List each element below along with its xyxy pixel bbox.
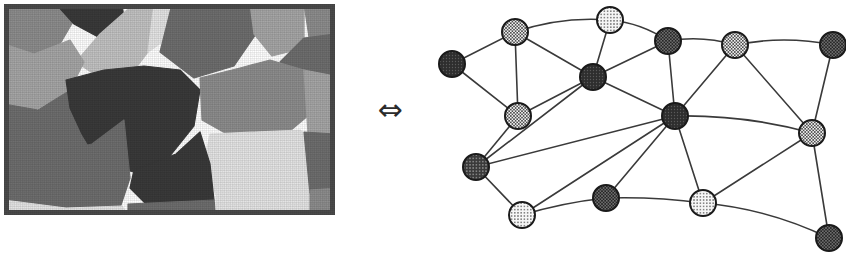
graph-node[interactable] — [655, 28, 681, 54]
graph-node-circle[interactable] — [593, 185, 619, 211]
region-adjacency-graph-svg — [430, 0, 846, 257]
graph-edge — [515, 19, 610, 32]
graph-edge — [812, 133, 829, 238]
graph-node-circle[interactable] — [597, 7, 623, 33]
graph-node[interactable] — [593, 185, 619, 211]
graph-node[interactable] — [502, 19, 528, 45]
graph-node[interactable] — [799, 120, 825, 146]
graph-node-circle[interactable] — [505, 103, 531, 129]
graph-node-circle[interactable] — [655, 28, 681, 54]
graph-edge — [476, 77, 593, 167]
graph-node-circle[interactable] — [799, 120, 825, 146]
graph-edge — [703, 203, 829, 238]
graph-edge — [703, 133, 812, 203]
graph-node[interactable] — [816, 225, 842, 251]
graph-node-circle[interactable] — [816, 225, 842, 251]
graph-node-circle[interactable] — [820, 32, 846, 58]
graph-edge — [476, 116, 675, 167]
equivalence-arrow-icon: ⇔ — [360, 90, 420, 130]
graph-node[interactable] — [722, 32, 748, 58]
graph-node-circle[interactable] — [502, 19, 528, 45]
graph-node-circle[interactable] — [463, 154, 489, 180]
graph-node[interactable] — [439, 51, 465, 77]
graph-node-circle[interactable] — [690, 190, 716, 216]
graph-node[interactable] — [820, 32, 846, 58]
graph-node-circle[interactable] — [439, 51, 465, 77]
figure-canvas: ⇔ — [0, 0, 846, 257]
graph-node[interactable] — [662, 103, 688, 129]
region-adjacency-graph — [430, 0, 846, 257]
graph-node-circle[interactable] — [580, 64, 606, 90]
graph-node[interactable] — [580, 64, 606, 90]
graph-nodes — [439, 7, 846, 251]
graph-edge — [606, 116, 675, 198]
segmented-image-svg — [4, 4, 335, 215]
graph-node[interactable] — [690, 190, 716, 216]
segmented-image — [4, 4, 335, 215]
graph-edge — [606, 198, 703, 203]
graph-edges — [452, 19, 833, 238]
halftone-texture — [4, 4, 335, 215]
graph-edge — [675, 116, 812, 133]
graph-node[interactable] — [597, 7, 623, 33]
graph-node[interactable] — [509, 202, 535, 228]
graph-node-circle[interactable] — [509, 202, 535, 228]
graph-node[interactable] — [505, 103, 531, 129]
graph-node-circle[interactable] — [662, 103, 688, 129]
graph-node[interactable] — [463, 154, 489, 180]
graph-node-circle[interactable] — [722, 32, 748, 58]
graph-edge — [735, 40, 833, 45]
